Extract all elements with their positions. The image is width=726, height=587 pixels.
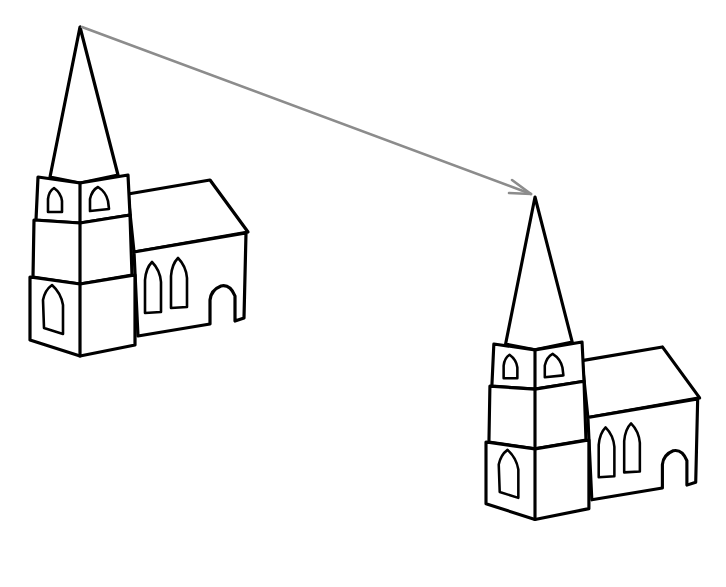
arrow (82, 27, 531, 194)
church-right (486, 197, 700, 519)
diagram-canvas (0, 0, 726, 587)
arrow-shaft (82, 27, 531, 194)
